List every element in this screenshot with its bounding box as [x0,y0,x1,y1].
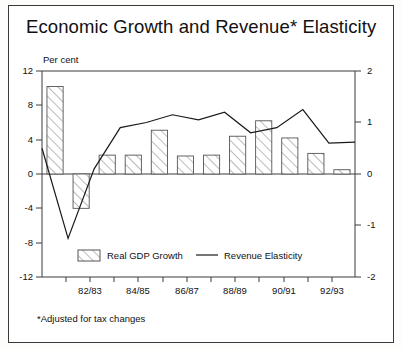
x-tick-label: 82/83 [78,285,102,296]
chart-figure: Economic Growth and Revenue* Elasticity … [0,0,403,349]
legend-label-bars: Real GDP Growth [107,250,183,261]
bar [203,155,219,174]
footnote: *Adjusted for tax changes [37,313,145,324]
left-tick-label: -8 [25,237,33,248]
left-tick-label: 8 [28,99,33,110]
left-axis-ticks [36,71,42,277]
bar [177,156,193,174]
bar [125,155,141,174]
x-axis-tick-labels: 82/83 84/85 86/87 88/89 90/91 92/93 [78,285,344,296]
bar-series-real-gdp-growth [47,86,350,208]
x-tick-label: 90/91 [272,285,296,296]
right-axis-tick-labels: 2 1 0 -1 -2 [367,65,375,282]
right-tick-label: 1 [367,116,372,127]
left-tick-label: 12 [22,65,33,76]
left-axis-tick-labels: 12 8 4 0 -4 -8 -12 [19,65,33,282]
right-axis-ticks [355,71,361,277]
left-tick-label: -12 [19,271,33,282]
legend-label-line: Revenue Elasticity [224,250,302,261]
legend-swatch-bars [78,250,100,261]
x-tick-label: 88/89 [223,285,247,296]
bar [282,138,298,174]
legend: Real GDP Growth Revenue Elasticity [78,250,302,261]
bar [334,170,350,174]
right-tick-label: 2 [367,65,372,76]
left-tick-label: 0 [28,168,33,179]
x-axis-ticks [66,277,332,282]
x-tick-label: 84/85 [126,285,150,296]
right-tick-label: -1 [367,219,375,230]
bar [151,130,167,174]
right-tick-label: -2 [367,271,375,282]
x-tick-label: 92/93 [320,285,344,296]
bar [308,153,324,174]
left-tick-label: -4 [25,202,33,213]
x-tick-label: 86/87 [175,285,199,296]
bar [230,136,246,174]
bar [47,86,63,174]
left-tick-label: 4 [28,134,33,145]
right-tick-label: 0 [367,168,372,179]
plot-area: 12 8 4 0 -4 -8 -12 2 1 0 -1 -2 [0,0,403,349]
